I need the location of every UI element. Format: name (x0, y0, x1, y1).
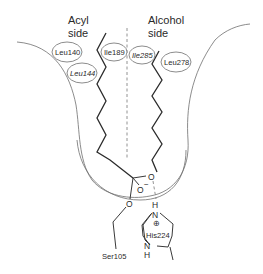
residue-ile189: Ile189 (101, 43, 127, 61)
acyl-side-label-line1: Acyl (68, 14, 89, 26)
his-h-bottom: H (144, 250, 150, 260)
svg-text:Leu140: Leu140 (55, 48, 80, 57)
alcohol-side-label-line2: side (148, 27, 168, 39)
ester-oxygen-atom: O (148, 172, 155, 182)
active-site-diagram: O O − O H N ⊕ N H His224 Ser105 Acyl sid… (0, 0, 263, 274)
ester-bond (133, 176, 146, 178)
his-charge: ⊕ (153, 219, 160, 228)
svg-text:Leu278: Leu278 (164, 58, 189, 67)
svg-text:Ile285: Ile285 (132, 51, 153, 60)
alcohol-side-label-line1: Alcohol (148, 14, 184, 26)
his224-label: His224 (146, 231, 170, 240)
acyl-side-label-line2: side (68, 27, 88, 39)
oxyanion-bond (133, 178, 139, 185)
oxyanion-charge: − (144, 180, 149, 189)
ser-side-chain (113, 207, 126, 249)
residue-leu140: Leu140 (52, 42, 82, 62)
residue-leu278: Leu278 (161, 52, 191, 72)
hydrogen-bond (153, 181, 156, 199)
ser-oxygen-atom: O (126, 199, 133, 209)
residue-leu144: Leu144 (67, 63, 97, 83)
alcohol-chain (152, 51, 162, 172)
residue-ile285: Ile285 (129, 46, 155, 64)
his-h-top: H (152, 200, 158, 210)
ser-bond (130, 178, 133, 199)
svg-text:Leu144: Leu144 (70, 69, 95, 78)
ser105-label: Ser105 (102, 252, 127, 261)
oxyanion-atom: O (137, 185, 144, 195)
svg-text:Ile189: Ile189 (104, 48, 125, 57)
